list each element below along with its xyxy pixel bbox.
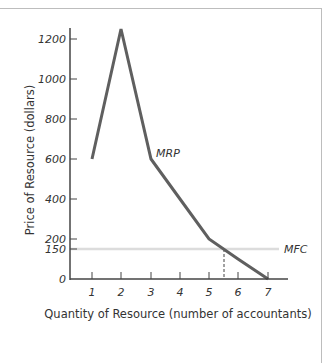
mrp-line: [92, 29, 268, 279]
svg-text:5: 5: [206, 286, 213, 299]
svg-text:800: 800: [45, 113, 66, 126]
x-axis-title: Quantity of Resource (number of accounta…: [44, 307, 311, 321]
y-axis-title: Price of Resource (dollars): [23, 85, 37, 235]
svg-text:150: 150: [45, 243, 66, 256]
x-ticks: [92, 272, 268, 279]
mrp-label: MRP: [156, 147, 180, 160]
svg-text:400: 400: [45, 193, 66, 206]
svg-text:7: 7: [265, 286, 272, 299]
svg-text:4: 4: [177, 286, 184, 299]
svg-text:1200: 1200: [38, 33, 66, 46]
svg-text:600: 600: [45, 153, 66, 166]
svg-text:6: 6: [235, 286, 242, 299]
y-ticks: [70, 39, 77, 249]
svg-text:0: 0: [59, 273, 66, 286]
svg-text:3: 3: [148, 286, 155, 299]
svg-text:2: 2: [118, 286, 125, 299]
svg-text:1: 1: [89, 286, 96, 299]
x-tick-labels: 1 2 3 4 5 6 7: [89, 286, 272, 299]
mfc-label: MFC: [284, 243, 308, 256]
y-tick-labels: 1200 1000 800 600 400 200 150 0: [38, 33, 66, 286]
chart: MFC MRP 1200 1000 800 600 400 200 150 0: [0, 0, 325, 363]
svg-text:1000: 1000: [38, 73, 66, 86]
